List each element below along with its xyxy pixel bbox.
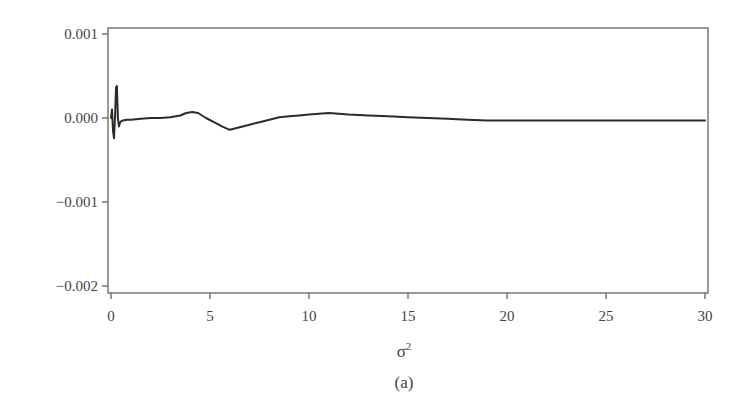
x-tick-label: 25 [599, 308, 614, 324]
x-tick-label: 10 [302, 308, 317, 324]
y-tick-label: −0.002 [56, 278, 98, 294]
x-tick-label: 5 [206, 308, 214, 324]
y-tick-label: 0.001 [64, 26, 98, 42]
plot-frame [108, 28, 708, 293]
x-tick-label: 30 [698, 308, 713, 324]
y-axis: 0.0010.000−0.001−0.002 [56, 26, 108, 294]
line-chart: 0.0010.000−0.001−0.002 051015202530 σ2 (… [0, 0, 746, 412]
y-tick-label: 0.000 [64, 110, 98, 126]
x-tick-label: 15 [401, 308, 416, 324]
x-tick-label: 0 [107, 308, 115, 324]
data-line [111, 86, 705, 138]
y-tick-label: −0.001 [56, 194, 98, 210]
x-axis-label: σ2 [397, 340, 412, 361]
x-tick-label: 20 [500, 308, 515, 324]
x-axis: 051015202530 [107, 293, 712, 324]
figure-caption: (a) [395, 373, 414, 392]
